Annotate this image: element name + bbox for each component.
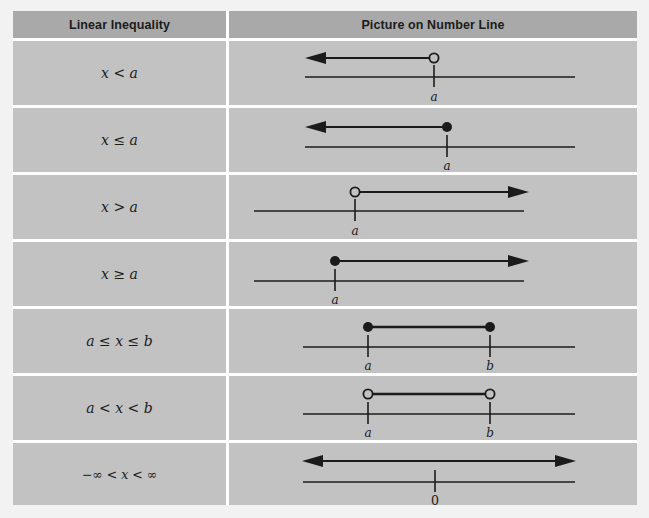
number-line-cell: a bbox=[229, 41, 637, 105]
tick-label-a: a bbox=[443, 159, 450, 172]
inequality-expression: x ≤ a bbox=[13, 108, 226, 172]
number-line-graph-x-gt-a: a bbox=[229, 175, 637, 239]
table-row: a ≤ x ≤ b a b bbox=[13, 309, 637, 373]
number-line-cell: a b bbox=[229, 376, 637, 440]
number-line-cell: a bbox=[229, 108, 637, 172]
inequality-expression: −∞ < x < ∞ bbox=[13, 443, 226, 505]
inequality-expression: x < a bbox=[13, 41, 226, 105]
number-line-graph-all-reals: 0 bbox=[229, 443, 637, 507]
inequality-cell: x > a bbox=[13, 175, 226, 239]
number-line-cell: a bbox=[229, 175, 637, 239]
inequality-cell: −∞ < x < ∞ bbox=[13, 443, 226, 505]
tick-label-a: a bbox=[364, 426, 371, 440]
inequality-cell: a < x < b bbox=[13, 376, 226, 440]
table-row: x < a a bbox=[13, 41, 637, 105]
inequality-expression: a ≤ x ≤ b bbox=[13, 309, 226, 373]
table-header-row: Linear Inequality Picture on Number Line bbox=[13, 11, 637, 38]
header-picture-number-line: Picture on Number Line bbox=[229, 11, 637, 38]
inequality-cell: x ≥ a bbox=[13, 242, 226, 306]
inequality-cell: a ≤ x ≤ b bbox=[13, 309, 226, 373]
tick-label-zero: 0 bbox=[431, 493, 439, 507]
table-row: x ≤ a a bbox=[13, 108, 637, 172]
table-row: −∞ < x < ∞ 0 bbox=[13, 443, 637, 505]
inequality-expression: a < x < b bbox=[13, 376, 226, 440]
table-row: x > a a bbox=[13, 175, 637, 239]
table-row: a < x < b a b bbox=[13, 376, 637, 440]
inequality-expression: x > a bbox=[13, 175, 226, 239]
number-line-cell: 0 bbox=[229, 443, 637, 505]
tick-label-b: b bbox=[486, 426, 494, 440]
inequality-cell: x < a bbox=[13, 41, 226, 105]
tick-label-b: b bbox=[486, 359, 494, 373]
number-line-graph-x-ge-a: a bbox=[229, 242, 637, 306]
number-line-graph-a-lt-x-lt-b: a b bbox=[229, 376, 637, 440]
number-line-graph-x-le-a: a bbox=[229, 108, 637, 172]
number-line-cell: a bbox=[229, 242, 637, 306]
inequality-expression: x ≥ a bbox=[13, 242, 226, 306]
inequality-table: Linear Inequality Picture on Number Line… bbox=[13, 11, 637, 505]
number-line-graph-x-lt-a: a bbox=[229, 41, 637, 105]
table-row: x ≥ a a bbox=[13, 242, 637, 306]
tick-label-a: a bbox=[364, 359, 371, 373]
inequality-cell: x ≤ a bbox=[13, 108, 226, 172]
number-line-graph-a-le-x-le-b: a b bbox=[229, 309, 637, 373]
header-linear-inequality: Linear Inequality bbox=[13, 11, 226, 38]
tick-label-a: a bbox=[331, 293, 338, 306]
tick-label-a: a bbox=[430, 90, 437, 104]
tick-label-a: a bbox=[351, 224, 358, 238]
number-line-cell: a b bbox=[229, 309, 637, 373]
